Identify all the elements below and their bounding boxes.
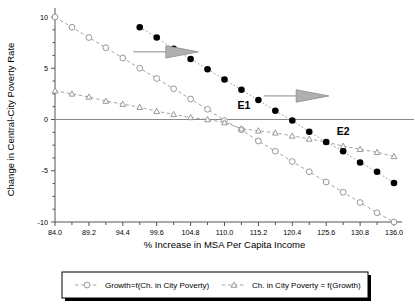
data-marker-triangle [340,143,346,148]
legend-label-1: Growth=f(Ch. in City Poverty) [105,281,210,290]
data-marker-dot [374,168,381,175]
x-tick-label: 89.2 [82,228,96,237]
x-axis-title: % Increase in MSA Per Capita Income [144,239,306,250]
plot-area: 1050-5-1084.089.294.499.6104.8110.0115.2… [0,0,415,307]
data-marker-circle [391,219,397,225]
data-marker-circle [188,96,194,102]
x-tick-label: 99.6 [150,228,164,237]
x-tick-label: 110.0 [216,228,233,237]
data-marker-circle [323,179,329,185]
data-marker-triangle [52,88,58,93]
data-marker-dot [255,97,262,104]
annotation-e1: E1 [238,99,251,111]
y-axis-title: Change in Central-City Poverty Rate [5,43,16,197]
data-marker-circle [340,189,346,195]
data-marker-circle [256,138,262,144]
data-marker-circle [52,14,58,20]
data-marker-circle [86,35,92,41]
x-tick-label: 136.0 [385,228,403,237]
data-marker-circle [357,200,363,206]
data-marker-dot [391,180,398,187]
data-marker-circle [103,45,109,51]
data-marker-dot [289,117,296,124]
data-marker-triangle [289,133,295,138]
y-tick-label: 10 [40,13,48,22]
data-marker-dot [204,66,211,73]
data-marker-circle [374,210,380,216]
x-tick-label: 84.0 [48,228,62,237]
y-tick-label: -5 [42,166,48,175]
data-marker-circle [69,24,75,30]
x-tick-label: 125.6 [317,228,335,237]
data-marker-triangle [171,111,177,116]
data-marker-dot [306,129,313,136]
chart-figure: 1050-5-1084.089.294.499.6104.8110.0115.2… [0,0,415,307]
data-marker-triangle [306,136,312,141]
x-tick-label: 115.2 [250,228,267,237]
annotation-e2: E2 [337,125,350,137]
x-tick-label: 104.8 [182,228,200,237]
data-marker-dot [221,76,228,83]
data-marker-circle [120,55,126,61]
data-marker-dot [323,139,330,146]
data-marker-circle [306,169,312,175]
data-marker-dot [187,56,194,63]
shift-arrow-head [166,46,199,58]
data-marker-circle [84,282,90,288]
x-tick-label: 130.8 [351,228,369,237]
data-marker-circle [171,86,177,92]
legend-label-2: Ch. in City Poverty = f(Growth) [252,281,361,290]
data-marker-dot [238,86,245,93]
data-marker-triangle [188,114,194,119]
y-tick-label: 5 [44,64,48,73]
data-marker-dot [340,148,347,155]
data-marker-circle [137,65,143,71]
data-marker-circle [205,106,211,112]
data-marker-circle [272,148,278,154]
data-marker-dot [153,34,160,41]
chart-canvas: 1050-5-1084.089.294.499.6104.8110.0115.2… [0,0,415,307]
x-tick-label: 120.4 [283,228,301,237]
y-tick-label: -10 [38,218,48,227]
shift-arrow-head [296,90,329,102]
data-marker-dot [136,24,143,31]
data-marker-circle [154,76,160,82]
data-marker-triangle [154,108,160,113]
data-marker-dot [272,107,279,114]
y-tick-label: 0 [44,115,48,124]
x-tick-label: 94.4 [116,228,130,237]
data-marker-dot [357,159,364,166]
data-marker-circle [289,159,295,165]
